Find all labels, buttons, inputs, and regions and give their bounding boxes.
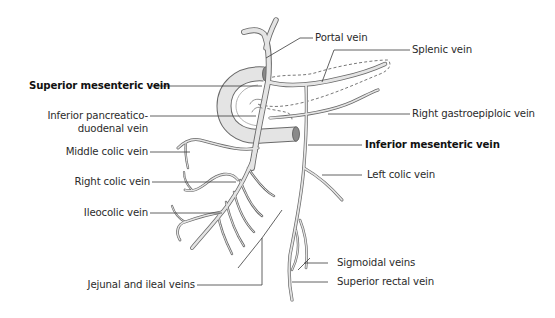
label-portal-vein: Portal vein [315, 32, 367, 44]
label-middle-colic-vein: Middle colic vein [40, 146, 148, 158]
leader-jejunal-ileal [197, 238, 262, 285]
duodenum-opening-lower [293, 127, 300, 142]
label-inferior-pancreaticoduodenal-vein-line1: Inferior pancreatico- [40, 110, 148, 122]
label-jejunal-and-ileal-veins: Jejunal and ileal veins [60, 279, 195, 291]
leader-lines [150, 38, 410, 285]
label-inferior-mesenteric-vein: Inferior mesenteric vein [365, 139, 500, 151]
label-superior-mesenteric-vein: Superior mesenteric vein [29, 80, 170, 92]
label-left-colic-vein: Left colic vein [367, 169, 435, 181]
label-ileocolic-vein: Ileocolic vein [40, 207, 148, 219]
leader-portal-vein [266, 38, 313, 58]
leader-sigmoidal-tick [298, 258, 310, 270]
label-inferior-pancreaticoduodenal-vein-line2: duodenal vein [40, 123, 148, 135]
leader-splenic-vein [322, 50, 410, 82]
label-sigmoidal-veins: Sigmoidal veins [337, 257, 415, 269]
label-right-gastroepiploic-vein: Right gastroepiploic vein [412, 108, 535, 120]
label-right-colic-vein: Right colic vein [40, 176, 150, 188]
label-superior-rectal-vein: Superior rectal vein [337, 276, 434, 288]
label-splenic-vein: Splenic vein [412, 44, 472, 56]
